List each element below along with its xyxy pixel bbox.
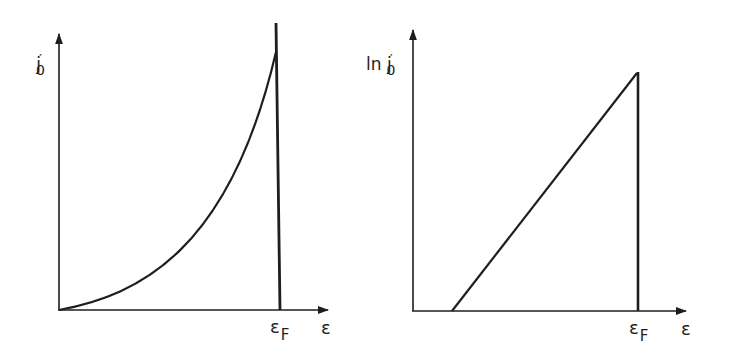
right-fermi-label: εF (629, 317, 648, 345)
left-x-label: ε (321, 317, 331, 338)
left-panel: j′0 εF ε (35, 23, 330, 344)
right-linear-line (452, 73, 637, 311)
left-fermi-label: εF (270, 316, 289, 344)
left-curve (59, 52, 276, 310)
right-x-label: ε (681, 318, 691, 339)
right-panel: ln j′0 εF ε (366, 30, 691, 345)
left-fermi-cutoff-line (276, 23, 280, 310)
figure: j′0 εF ε ln j′0 εF ε (0, 0, 729, 352)
right-y-label: ln j′0 (366, 51, 396, 78)
left-y-label: j′0 (35, 51, 45, 78)
